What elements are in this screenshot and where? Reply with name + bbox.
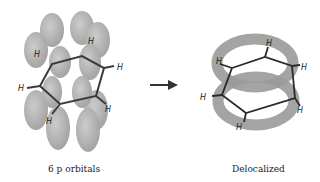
svg-text:H: H [46, 117, 52, 126]
svg-text:H: H [18, 84, 24, 93]
svg-text:H: H [297, 106, 303, 115]
left-caption: 6 p orbitals [48, 164, 100, 174]
benzene-diagram: H H H H H H H H H H H H [0, 0, 320, 182]
svg-text:H: H [88, 37, 94, 46]
svg-text:H: H [117, 63, 123, 72]
reaction-arrow-icon [150, 80, 178, 90]
delocalized-rings [217, 39, 294, 125]
svg-text:H: H [200, 93, 206, 102]
svg-text:H: H [266, 39, 272, 48]
svg-text:H: H [236, 123, 242, 132]
svg-text:H: H [301, 63, 307, 72]
svg-text:H: H [34, 50, 40, 59]
svg-text:H: H [216, 57, 222, 66]
right-caption: Delocalized [232, 164, 285, 174]
p-orbitals-group [24, 11, 110, 152]
svg-text:H: H [105, 105, 111, 114]
